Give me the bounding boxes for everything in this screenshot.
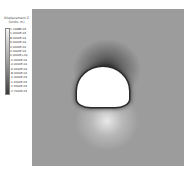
legend-ticks: 1.1498E-03 1.0000E-03 8.0000E-04 6.0000E…: [10, 28, 32, 94]
legend-tick: -1.5000E-03: [10, 85, 27, 88]
legend-tick: -1.7000E-03: [10, 90, 27, 93]
contour-legend: Displacement Z (Units: m) 1.1498E-03 1.0…: [0, 16, 32, 96]
contour-plot: [32, 9, 184, 166]
legend-tick: -4.0000E-04: [10, 63, 27, 66]
legend-tick: 1.0000E-03: [10, 32, 26, 35]
legend-units: (Units: m): [1, 20, 32, 24]
legend-tick: 0.0000E+00: [10, 54, 27, 57]
tunnel-opening: [77, 67, 129, 107]
legend-tick: 6.0000E-04: [10, 41, 26, 44]
legend-tick: -1.0000E-03: [10, 76, 27, 79]
